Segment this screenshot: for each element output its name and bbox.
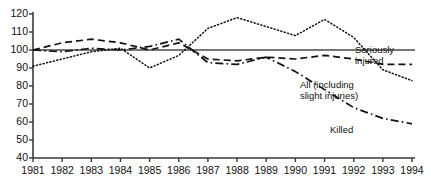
y-tick-label-100: 100 (2, 43, 28, 55)
line-chart: 120110100908070605040 198119821983198419… (0, 0, 431, 182)
chart-series-lines (33, 18, 412, 124)
series-label-all-including-slight-injuries: All (including slight injuries) (300, 79, 358, 101)
y-tick-label-80: 80 (2, 79, 28, 91)
chart-plot-area (0, 0, 431, 182)
y-tick-label-110: 110 (2, 25, 28, 37)
series-label-seriously-injured: Seriously injured (355, 44, 394, 66)
y-tick-label-70: 70 (2, 97, 28, 109)
series-label-killed: Killed (330, 124, 353, 135)
y-tick-label-90: 90 (2, 61, 28, 73)
y-tick-label-60: 60 (2, 115, 28, 127)
y-tick-label-120: 120 (2, 7, 28, 19)
y-tick-label-40: 40 (2, 151, 28, 163)
x-tick-label-1994: 1994 (395, 164, 429, 176)
y-tick-label-50: 50 (2, 133, 28, 145)
